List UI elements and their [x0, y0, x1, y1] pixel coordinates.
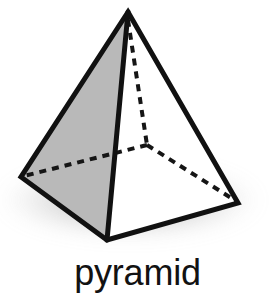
pyramid-illustration: [0, 0, 275, 297]
pyramid-figure: pyramid: [0, 0, 275, 297]
